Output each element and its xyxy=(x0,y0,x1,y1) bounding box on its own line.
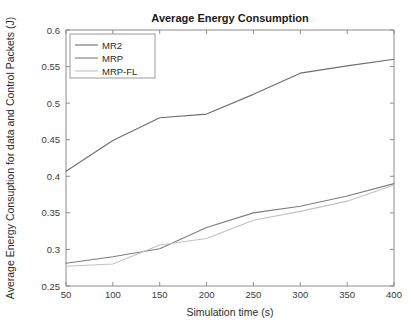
legend-label-mrp-fl: MRP-FL xyxy=(102,66,137,77)
y-tick-label: 0.6 xyxy=(47,25,60,36)
legend-label-mr2: MR2 xyxy=(102,40,122,51)
x-tick-label: 400 xyxy=(386,289,402,300)
x-tick-label: 50 xyxy=(61,289,72,300)
x-tick-label: 350 xyxy=(339,289,355,300)
series-line-mrp-fl xyxy=(66,185,394,266)
y-tick-label: 0.25 xyxy=(42,281,61,292)
series-line-mrp xyxy=(66,184,394,264)
x-axis-title: Simulation time (s) xyxy=(187,306,274,318)
y-tick-label: 0.55 xyxy=(42,61,61,72)
y-tick-label: 0.3 xyxy=(47,244,60,255)
x-tick-label: 100 xyxy=(105,289,121,300)
y-axis-title: Average Energy Consuption for data and C… xyxy=(4,17,16,299)
y-tick-label: 0.45 xyxy=(42,134,61,145)
y-tick-label: 0.35 xyxy=(42,207,61,218)
x-tick-label: 250 xyxy=(245,289,261,300)
line-chart: 501001502002503003504000.250.30.350.40.4… xyxy=(0,0,411,330)
x-tick-label: 200 xyxy=(199,289,215,300)
x-tick-label: 300 xyxy=(292,289,308,300)
y-tick-label: 0.4 xyxy=(47,171,60,182)
chart-title: Average Energy Consumption xyxy=(151,12,309,24)
x-tick-label: 150 xyxy=(152,289,168,300)
chart-figure: 501001502002503003504000.250.30.350.40.4… xyxy=(0,0,411,330)
y-tick-label: 0.5 xyxy=(47,98,60,109)
legend-label-mrp: MRP xyxy=(102,53,123,64)
